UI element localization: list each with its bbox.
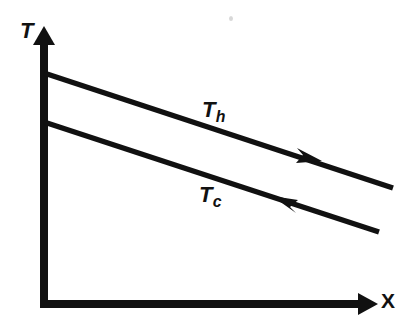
temperature-axis-label: T (20, 20, 33, 42)
hot-stream-label-base: T (202, 97, 215, 122)
hot-stream-line (44, 73, 393, 188)
cold-stream-label-subscript: c (213, 193, 222, 210)
cold-stream-label: Tc (199, 184, 221, 206)
figure-canvas: T X Th Tc (0, 0, 408, 327)
position-axis-label: X (381, 290, 395, 311)
hot-stream-label-subscript: h (216, 108, 226, 125)
hot-stream-label: Th (202, 99, 225, 121)
y-axis-arrowhead-icon (33, 26, 55, 45)
x-axis-arrowhead-icon (358, 293, 378, 315)
cold-stream-line (44, 122, 379, 232)
x-axis-line (40, 300, 365, 308)
temperature-profile-diagram (0, 0, 408, 327)
y-axis-line (40, 40, 48, 308)
cold-stream-label-base: T (199, 182, 212, 207)
scan-speck-artifact (229, 16, 233, 21)
